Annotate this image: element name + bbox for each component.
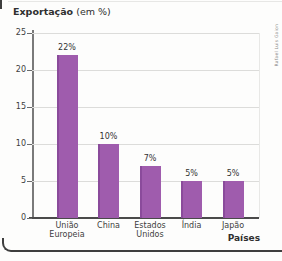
frame-bottom-border — [2, 238, 282, 252]
chart-title-main: Exportação — [13, 6, 73, 17]
y-tick-label: 0 — [8, 213, 26, 223]
bar-value-label: 7% — [130, 154, 170, 163]
y-tick-mark — [27, 107, 32, 108]
bar-4 — [181, 181, 202, 218]
y-tick-mark — [27, 144, 32, 145]
gridline — [32, 33, 259, 34]
frame-corner-mark — [0, 0, 2, 9]
category-label: Japão — [206, 221, 260, 230]
bar-5 — [223, 181, 244, 218]
y-tick-mark — [27, 181, 32, 182]
credit-text: Rafael Luis Gaion — [274, 24, 279, 66]
chart-title: Exportação (em %) — [13, 6, 111, 17]
top-divider — [8, 1, 282, 2]
chart-panel: Exportação (em %) 22%10%7%5%5% 051015202… — [0, 0, 282, 261]
bar-2 — [98, 144, 119, 218]
bar-value-label: 5% — [172, 169, 212, 178]
y-tick-label: 5 — [8, 176, 26, 186]
y-tick-label: 25 — [8, 28, 26, 38]
plot-area: 22%10%7%5%5% — [32, 33, 260, 218]
bar-value-label: 22% — [47, 43, 87, 52]
bar-value-label: 10% — [89, 132, 129, 141]
chart-title-suffix: (em %) — [73, 6, 111, 17]
y-tick-label: 15 — [8, 102, 26, 112]
bar-1 — [57, 55, 78, 218]
y-tick-mark — [27, 33, 32, 34]
bar-3 — [140, 166, 161, 218]
y-tick-label: 20 — [8, 65, 26, 75]
y-tick-mark — [27, 218, 32, 219]
y-tick-label: 10 — [8, 139, 26, 149]
bar-value-label: 5% — [213, 169, 253, 178]
y-tick-mark — [27, 70, 32, 71]
